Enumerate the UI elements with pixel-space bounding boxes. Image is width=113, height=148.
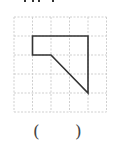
open-paren: (: [33, 118, 40, 144]
close-paren: ): [75, 118, 82, 144]
answer-blank[interactable]: ( ): [0, 118, 113, 144]
pentagon-shape: [33, 36, 89, 93]
